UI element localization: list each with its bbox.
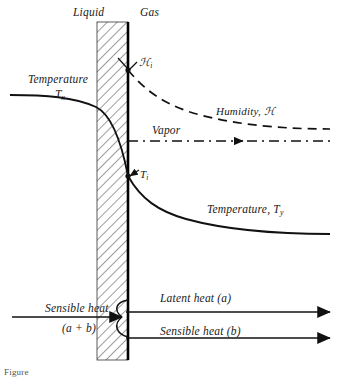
hi-leader (129, 62, 137, 70)
sensible-heat-out-label: Sensible heat (b) (160, 325, 241, 337)
tx-subscript: x (62, 93, 66, 102)
temperature-right-label: Temperature, Ty (207, 203, 284, 217)
humidity-interface-label: ℋi (139, 56, 152, 70)
interface-temperature-point (125, 173, 130, 178)
temperature-left-label: Temperature (28, 73, 88, 85)
vapor-label: Vapor (152, 124, 180, 136)
ty-text: Temperature, T (207, 203, 280, 215)
phase-label-gas: Gas (140, 6, 159, 18)
latent-heat-label: Latent heat (a) (160, 292, 231, 304)
phase-label-liquid: Liquid (73, 6, 104, 18)
figure-caption: Figure (4, 367, 29, 377)
humidity-curve-label: Humidity, ℋ (216, 105, 275, 118)
temperature-left-symbol: Tx (55, 88, 65, 102)
humidity-symbol: ℋ (139, 56, 150, 68)
ty-subscript: y (280, 208, 284, 217)
tx-symbol: T (55, 88, 62, 100)
humidity-curve (128, 70, 330, 129)
ti-leader (130, 170, 139, 176)
ti-subscript: i (146, 173, 148, 182)
sensible-heat-in-amount: (a + b) (62, 322, 96, 334)
temperature-interface-label: Ti (140, 168, 149, 182)
humidity-subscript: i (150, 61, 152, 70)
sensible-heat-in-label: Sensible heat (45, 302, 109, 314)
